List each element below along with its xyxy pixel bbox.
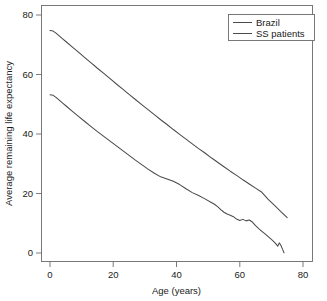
- y-tick-label: 40: [22, 128, 33, 139]
- x-tick-group-4: 80: [298, 262, 309, 281]
- legend: Brazil SS patients: [229, 15, 315, 41]
- x-tick-label: 80: [298, 269, 309, 280]
- x-tick-group-1: 20: [108, 262, 119, 281]
- line-chart: 0 20 40 60 80 0: [0, 0, 327, 301]
- chart-figure: 0 20 40 60 80 0: [0, 0, 327, 301]
- legend-label: SS patients: [256, 28, 305, 39]
- x-tick-label: 60: [235, 269, 246, 280]
- y-tick-label: 60: [22, 69, 33, 80]
- x-axis-title: Age (years): [152, 285, 201, 296]
- x-axis: 0 20 40 60 80: [47, 262, 308, 281]
- y-tick-group-2: 40: [22, 128, 41, 139]
- y-tick-label: 0: [28, 247, 33, 258]
- plot-area-frame: [42, 6, 313, 262]
- y-tick-label: 20: [22, 188, 33, 199]
- x-tick-label: 40: [171, 269, 182, 280]
- y-axis-title: Average remaining life expectancy: [3, 61, 14, 206]
- y-tick-group-3: 60: [22, 69, 41, 80]
- legend-label: Brazil: [256, 17, 280, 28]
- y-tick-group-0: 0: [28, 247, 42, 258]
- x-tick-label: 0: [47, 269, 52, 280]
- x-tick-label: 20: [108, 269, 119, 280]
- x-tick-group-0: 0: [47, 262, 52, 281]
- y-axis: 0 20 40 60 80: [22, 9, 41, 258]
- x-tick-group-2: 40: [171, 262, 182, 281]
- y-tick-group-1: 20: [22, 188, 41, 199]
- y-tick-group-4: 80: [22, 9, 41, 20]
- y-tick-label: 80: [22, 9, 33, 20]
- x-tick-group-3: 60: [235, 262, 246, 281]
